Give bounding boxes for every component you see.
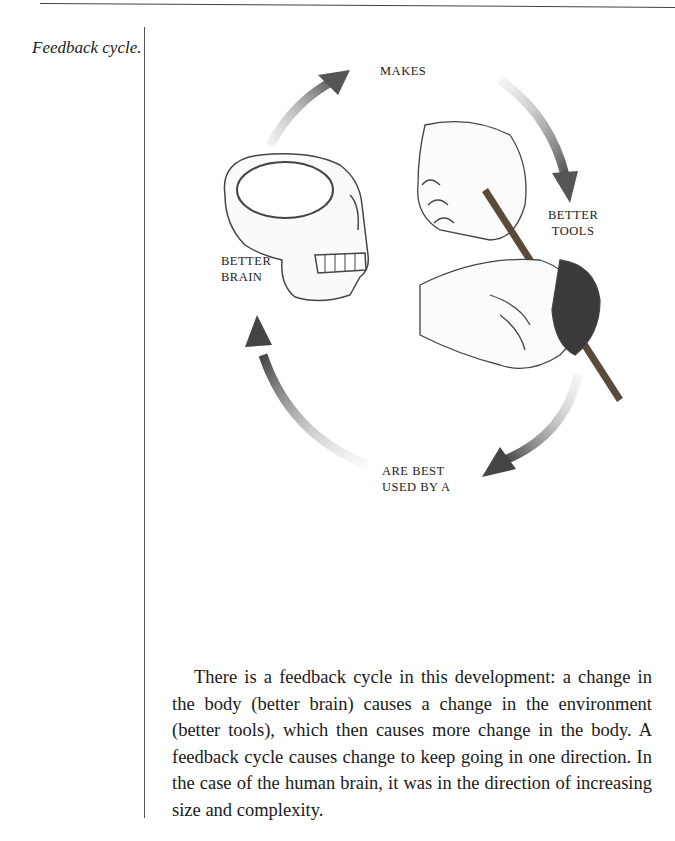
margin-divider-rule <box>144 27 145 818</box>
label-better-tools-line2: TOOLS <box>548 223 598 239</box>
feedback-cycle-figure: MAKES BETTER TOOLS ARE BEST USED BY A BE… <box>200 55 630 495</box>
label-are-best-line2: USED BY A <box>382 479 451 495</box>
body-paragraph: There is a feedback cycle in this develo… <box>172 664 652 823</box>
label-better-brain-line2: BRAIN <box>221 269 271 285</box>
label-better-brain-line1: BETTER <box>221 253 271 269</box>
top-page-rule <box>40 3 675 8</box>
body-text: There is a feedback cycle in this develo… <box>172 664 652 823</box>
hands-shaping-stone-tool-illustration <box>418 122 620 400</box>
label-better-tools: BETTER TOOLS <box>548 207 598 239</box>
label-better-brain: BETTER BRAIN <box>221 253 271 285</box>
arrow-makes-icon <box>270 70 350 145</box>
label-better-tools-line1: BETTER <box>548 207 598 223</box>
arrow-better-brain-icon <box>245 315 368 465</box>
label-makes: MAKES <box>380 63 426 79</box>
label-are-best-line1: ARE BEST <box>382 463 451 479</box>
label-are-best-used-by: ARE BEST USED BY A <box>382 463 451 495</box>
arrow-used-by-icon <box>482 375 578 477</box>
margin-caption: Feedback cycle. <box>32 38 141 58</box>
